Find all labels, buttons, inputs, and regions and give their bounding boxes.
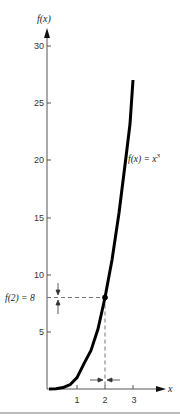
x-tick-labels: 1 2 3 [74, 395, 136, 405]
point-label: f(2) = 8 [5, 293, 35, 304]
chart-canvas: f(x) x 5 10 15 20 25 30 1 2 3 f(2) = 8 [0, 0, 180, 419]
x-ticks [77, 385, 133, 389]
y-tick-labels: 5 10 15 20 25 30 [34, 41, 44, 337]
svg-text:2: 2 [102, 395, 107, 405]
y-increment-arrows [56, 283, 60, 314]
point-2-8 [102, 295, 108, 301]
x-axis-arrow-icon [156, 386, 166, 392]
curve-label: f(x) = x3 [128, 152, 161, 165]
svg-text:5: 5 [39, 327, 44, 337]
x-axis-label: x [167, 383, 173, 394]
svg-text:25: 25 [34, 98, 44, 108]
svg-text:20: 20 [34, 155, 44, 165]
svg-text:30: 30 [34, 41, 44, 51]
svg-text:15: 15 [34, 213, 44, 223]
svg-text:1: 1 [74, 395, 79, 405]
svg-text:3: 3 [131, 395, 136, 405]
y-ticks [47, 46, 51, 332]
curve-x-cubed [49, 80, 133, 389]
svg-text:10: 10 [34, 270, 44, 280]
y-axis-label: f(x) [37, 13, 52, 25]
x-increment-arrows [90, 378, 120, 382]
y-axis-arrow-icon [44, 28, 50, 38]
